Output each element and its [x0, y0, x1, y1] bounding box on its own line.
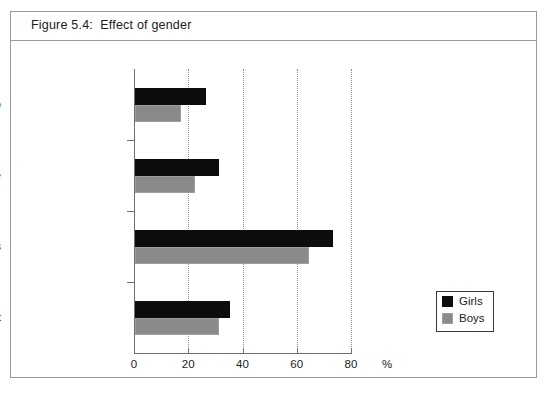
bar-girls-0 [135, 88, 206, 105]
chart-legend: Girls Boys [436, 291, 494, 332]
legend-item-girls: Girls [442, 296, 483, 307]
gridline-60 [297, 69, 298, 353]
legend-item-boys: Boys [442, 313, 485, 324]
legend-swatch-boys-icon [442, 313, 453, 324]
plot-area: % Girls Boys 020406080Wash upTidy houseW… [11, 41, 536, 377]
bar-girls-3 [135, 301, 230, 318]
bar-boys-2 [135, 247, 309, 264]
bar-girls-1 [135, 159, 219, 176]
y-axis-tick-2 [127, 211, 135, 212]
x-axis-tick-0 [134, 348, 135, 354]
x-axis-tick-80 [351, 348, 352, 354]
category-label-2: Worry about others [0, 240, 1, 252]
x-axis-tick-label-80: 80 [345, 358, 358, 370]
bar-chart: % Girls Boys 020406080Wash upTidy houseW… [11, 41, 536, 378]
legend-label-girls: Girls [459, 296, 483, 307]
x-axis-tick-60 [297, 348, 298, 354]
figure-frame: Figure 5.4: Effect of gender % Girls Boy… [10, 11, 537, 378]
x-axis-tick-label-40: 40 [236, 358, 249, 370]
bar-boys-1 [135, 176, 195, 193]
category-label-3: Look after ill adult [0, 311, 1, 323]
bar-boys-3 [135, 318, 219, 335]
x-axis-tick-label-20: 20 [182, 358, 195, 370]
gridline-40 [243, 69, 244, 353]
y-axis-tick-3 [127, 282, 135, 283]
bar-boys-0 [135, 105, 181, 122]
legend-swatch-girls-icon [442, 296, 453, 307]
gridline-80 [351, 69, 352, 353]
x-axis-tick-label-60: 60 [290, 358, 303, 370]
category-label-1: Tidy house [0, 169, 1, 181]
x-axis-unit-label: % [382, 358, 392, 370]
x-axis-tick-label-0: 0 [131, 358, 137, 370]
x-axis-tick-40 [243, 348, 244, 354]
x-axis-tick-20 [188, 348, 189, 354]
page-bleed-text [300, 0, 500, 6]
legend-label-boys: Boys [459, 313, 485, 324]
y-axis-tick-1 [127, 140, 135, 141]
page-title: Figure 5.4: Effect of gender [31, 18, 192, 32]
figure-title-bar: Figure 5.4: Effect of gender [11, 12, 536, 41]
screenshot-root: Figure 5.4: Effect of gender % Girls Boy… [0, 0, 553, 393]
category-label-0: Wash up [0, 98, 1, 110]
bar-girls-2 [135, 230, 333, 247]
